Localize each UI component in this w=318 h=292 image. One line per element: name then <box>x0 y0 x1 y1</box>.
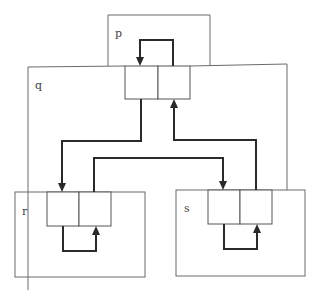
self-loop-p <box>136 40 173 66</box>
cell-pair-p <box>125 66 190 99</box>
label-s: s <box>184 202 190 215</box>
label-r: r <box>22 205 28 218</box>
arrow-head-icon <box>92 226 100 235</box>
arrow-head-icon <box>136 57 144 66</box>
arrow-head-icon <box>253 224 261 233</box>
link-p-to-r <box>58 99 141 192</box>
self-loop-s <box>224 224 261 249</box>
arrow-head-icon <box>170 99 178 108</box>
self-loop-r <box>63 226 100 251</box>
cell-pair-r <box>47 192 111 226</box>
link-s-to-p <box>170 99 256 190</box>
cell-pair-s <box>208 190 272 224</box>
label-q: q <box>35 79 42 92</box>
arrow-head-icon <box>219 181 227 190</box>
link-r-to-s <box>94 158 227 192</box>
label-p: p <box>115 27 122 40</box>
pointer-diagram: q p r s <box>0 0 318 292</box>
arrow-head-icon <box>58 183 66 192</box>
